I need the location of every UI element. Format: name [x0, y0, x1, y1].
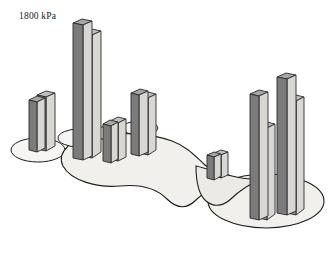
bar-l1 [29, 96, 45, 152]
bar-i1 [207, 152, 221, 180]
group-isthmus [207, 150, 228, 180]
bar-c1 [73, 19, 92, 160]
group-left-island [29, 91, 55, 152]
group-center-tall [73, 19, 101, 160]
bar-m3 [131, 89, 148, 156]
scene-canvas: .pf { fill:#f2f0ed; stroke:#1f1f1f; stro… [0, 0, 332, 255]
prism-map-figure: .pf { fill:#f2f0ed; stroke:#1f1f1f; stro… [0, 0, 332, 255]
bar-r3 [277, 73, 296, 215]
group-mid-b [131, 89, 156, 156]
bar-m1 [103, 120, 118, 163]
scale-label: 1800 kPa [19, 11, 56, 21]
group-right [250, 73, 304, 220]
group-mid-a [103, 117, 126, 163]
bar-r1 [250, 90, 268, 220]
